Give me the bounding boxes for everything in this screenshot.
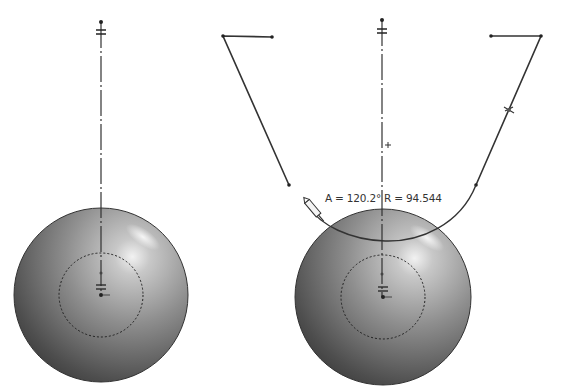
pencil-cursor-icon xyxy=(301,196,326,224)
sketch-point[interactable] xyxy=(539,34,543,38)
sketch-viewport[interactable] xyxy=(0,0,564,391)
crosshair-cursor-icon xyxy=(385,142,391,148)
sketch-point[interactable] xyxy=(221,34,225,38)
left-midpoint[interactable] xyxy=(100,272,103,275)
right-midpoint[interactable] xyxy=(381,273,384,276)
sketch-point[interactable] xyxy=(489,34,493,38)
centerline-endpoint[interactable] xyxy=(380,18,384,22)
sketch-point[interactable] xyxy=(270,35,274,39)
centerline-endpoint[interactable] xyxy=(99,20,103,24)
arc-dimension-readout: A = 120.2° R = 94.544 xyxy=(325,192,442,204)
sketch-point[interactable] xyxy=(287,183,291,187)
left-sketch-polyline[interactable] xyxy=(223,36,289,185)
left-view xyxy=(14,20,291,382)
